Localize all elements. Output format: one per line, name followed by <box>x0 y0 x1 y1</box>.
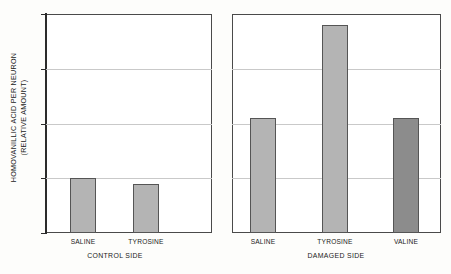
y-axis-title-line1: HOMOVANILLIC ACID PER NEURON <box>9 53 18 182</box>
gridline-3 <box>46 69 212 70</box>
y-tick-4 <box>41 14 45 15</box>
y-tick-2 <box>41 124 45 125</box>
y-axis-title: HOMOVANILLIC ACID PER NEURON(RELATIVE AM… <box>9 3 28 233</box>
x-label-control-tyrosine: TYROSINE <box>128 238 163 245</box>
y-axis-title-line2: (RELATIVE AMOUNT) <box>18 80 27 156</box>
y-tick-1 <box>41 178 45 179</box>
figure: HOMOVANILLIC ACID PER NEURON(RELATIVE AM… <box>0 0 451 274</box>
y-tick-0 <box>41 233 45 234</box>
group-label-damaged: DAMAGED SIDE <box>307 252 364 259</box>
bar-damaged-valine <box>393 118 419 233</box>
x-label-damaged-tyrosine: TYROSINE <box>317 238 352 245</box>
panel-damaged-side <box>232 14 441 233</box>
bar-control-saline <box>70 178 96 233</box>
x-label-damaged-valine: VALINE <box>394 238 418 245</box>
bar-control-tyrosine <box>133 184 159 233</box>
x-label-control-saline: SALINE <box>71 238 96 245</box>
bar-damaged-saline <box>250 118 276 233</box>
x-label-damaged-saline: SALINE <box>251 238 276 245</box>
bar-damaged-tyrosine <box>322 25 348 233</box>
gridline-2 <box>46 124 212 125</box>
y-tick-3 <box>41 69 45 70</box>
group-label-control: CONTROL SIDE <box>87 252 143 259</box>
panel-control-side <box>46 14 212 233</box>
